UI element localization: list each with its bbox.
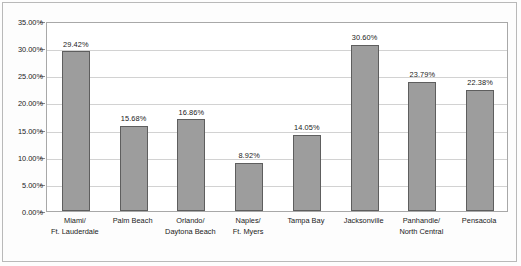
bar-slot[interactable]: 29.42% xyxy=(62,23,90,211)
bar-value-label: 29.42% xyxy=(44,40,108,49)
bar-slot[interactable]: 15.68% xyxy=(120,23,148,211)
bar[interactable] xyxy=(466,90,494,211)
bar[interactable] xyxy=(351,45,379,211)
plot-area: 29.42%15.68%16.86%8.92%14.05%30.60%23.79… xyxy=(46,22,508,212)
bar-slot[interactable]: 22.38% xyxy=(466,23,494,211)
bar[interactable] xyxy=(62,51,90,211)
bar-slot[interactable]: 30.60% xyxy=(351,23,379,211)
y-axis-tick-label: 10.00% xyxy=(1,153,43,162)
y-axis-tick-label: 0.00% xyxy=(1,208,43,217)
bar-slot[interactable]: 23.79% xyxy=(408,23,436,211)
x-axis-label-line: Naples/ xyxy=(219,216,277,227)
bar-slot[interactable]: 14.05% xyxy=(293,23,321,211)
x-axis-label-line: Palm Beach xyxy=(104,216,162,227)
bar-chart-figure: 35.00%30.00%25.00%20.00%15.00%10.00%5.00… xyxy=(0,0,521,266)
bar-value-label: 16.86% xyxy=(159,108,223,117)
bar-value-label: 14.05% xyxy=(275,123,339,132)
x-axis-tick-label: Naples/Ft. Myers xyxy=(219,216,277,237)
bar-slot[interactable]: 16.86% xyxy=(177,23,205,211)
bar-value-label: 23.79% xyxy=(390,70,454,79)
bar[interactable] xyxy=(235,163,263,211)
x-axis-label-line: Jacksonville xyxy=(335,216,393,227)
x-axis-label-line: Ft. Lauderdale xyxy=(46,227,104,238)
bars-layer: 29.42%15.68%16.86%8.92%14.05%30.60%23.79… xyxy=(47,23,507,211)
x-axis-tick-label: Orlando/Daytona Beach xyxy=(162,216,220,237)
x-axis-label-line: Miami/ xyxy=(46,216,104,227)
bar-value-label: 22.38% xyxy=(448,78,512,87)
bar[interactable] xyxy=(293,135,321,211)
x-axis-tick-label: Jacksonville xyxy=(335,216,393,227)
x-axis-tick-label: Tampa Bay xyxy=(277,216,335,227)
bar[interactable] xyxy=(120,126,148,211)
x-axis-label-line: Ft. Myers xyxy=(219,227,277,238)
x-axis-label-line: Orlando/ xyxy=(162,216,220,227)
bar[interactable] xyxy=(177,119,205,211)
y-axis-tick-label: 30.00% xyxy=(1,45,43,54)
bar-value-label: 8.92% xyxy=(217,151,281,160)
y-axis-tick-label: 25.00% xyxy=(1,72,43,81)
bar[interactable] xyxy=(408,82,436,211)
bar-slot[interactable]: 8.92% xyxy=(235,23,263,211)
y-axis-tick-label: 35.00% xyxy=(1,18,43,27)
y-axis-labels: 35.00%30.00%25.00%20.00%15.00%10.00%5.00… xyxy=(0,22,43,212)
x-axis-label-line: Pensacola xyxy=(450,216,508,227)
y-axis-tick-label: 20.00% xyxy=(1,99,43,108)
y-axis-tick-label: 5.00% xyxy=(1,180,43,189)
bar-value-label: 30.60% xyxy=(333,33,397,42)
x-axis-label-line: Panhandle/ xyxy=(393,216,451,227)
x-axis-labels: Miami/Ft. LauderdalePalm BeachOrlando/Da… xyxy=(46,216,508,260)
x-axis-tick-label: Palm Beach xyxy=(104,216,162,227)
x-axis-label-line: North Central xyxy=(393,227,451,238)
x-axis-tick-label: Miami/Ft. Lauderdale xyxy=(46,216,104,237)
bar-value-label: 15.68% xyxy=(102,114,166,123)
x-axis-label-line: Daytona Beach xyxy=(162,227,220,238)
x-axis-tick-label: Panhandle/North Central xyxy=(393,216,451,237)
y-axis-tick-label: 15.00% xyxy=(1,126,43,135)
x-axis-tick-label: Pensacola xyxy=(450,216,508,227)
x-axis-label-line: Tampa Bay xyxy=(277,216,335,227)
